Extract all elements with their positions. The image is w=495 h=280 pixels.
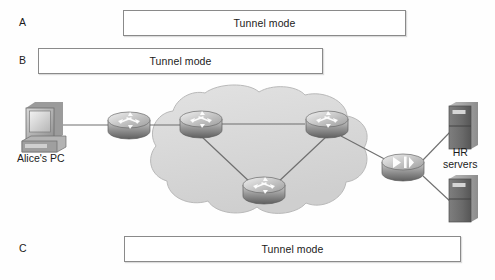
router-icon-cloud-left — [180, 111, 222, 138]
router-icon-cloud-bottom — [243, 177, 285, 204]
desktop-computer-icon — [22, 102, 66, 152]
network-canvas — [0, 0, 495, 280]
network-diagram: A B C Tunnel mode Tunnel mode Tunnel mod… — [0, 0, 495, 280]
alices-pc-label: Alice's PC — [17, 152, 65, 164]
hr-servers-label-line1: HR — [443, 146, 477, 158]
router-icon-hr — [382, 154, 424, 181]
hr-servers-label-line2: servers — [443, 158, 477, 170]
router-icon-cloud-right — [306, 111, 348, 138]
hr-servers-label: HR servers — [443, 146, 477, 170]
router-icon-edge — [108, 112, 150, 139]
server-tower-icon-2 — [449, 175, 478, 222]
server-tower-icon-1 — [449, 102, 478, 149]
link-hr-router-to-server-2 — [423, 176, 452, 203]
